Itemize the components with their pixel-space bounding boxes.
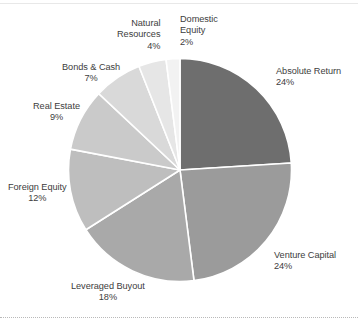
- slice-label-name-line1: Domestic: [180, 14, 218, 24]
- slice-label-name: Foreign Equity: [8, 182, 67, 192]
- slice-label-name: Leveraged Buyout: [71, 281, 145, 291]
- slice-label-value: 24%: [274, 261, 336, 272]
- slice-label-name: Real Estate: [33, 101, 80, 111]
- slice-label-natural-resources: Natural Resources 4%: [117, 18, 160, 52]
- slice-label-name-line2: Equity: [180, 25, 205, 35]
- slice-label-venture-capital: Venture Capital 24%: [274, 250, 336, 273]
- slice-label-absolute-return: Absolute Return 24%: [276, 66, 341, 89]
- slice-label-name: Absolute Return: [276, 66, 341, 76]
- pie-chart: [68, 58, 292, 282]
- slice-label-value: 4%: [117, 41, 160, 52]
- slice-label-name: Bonds & Cash: [62, 62, 120, 72]
- slice-label-domestic-equity: Domestic Equity 2%: [180, 14, 218, 48]
- slice-label-value: 24%: [276, 77, 341, 88]
- top-divider: [0, 3, 358, 4]
- slice-label-value: 7%: [62, 73, 120, 84]
- slice-label-value: 18%: [71, 292, 145, 303]
- slice-label-bonds-cash: Bonds & Cash 7%: [62, 62, 120, 85]
- slice-label-name-line1: Natural: [131, 18, 160, 28]
- slice-label-foreign-equity: Foreign Equity 12%: [8, 182, 67, 205]
- pie-svg: [68, 58, 292, 282]
- pie-chart-figure: Absolute Return 24% Venture Capital 24% …: [0, 0, 358, 322]
- slice-label-real-estate: Real Estate 9%: [33, 101, 80, 124]
- slice-label-name: Venture Capital: [274, 250, 336, 260]
- slice-label-value: 2%: [180, 37, 218, 48]
- slice-label-leveraged-buyout: Leveraged Buyout 18%: [71, 281, 145, 304]
- slice-label-name-line2: Resources: [117, 29, 160, 39]
- bottom-divider: [0, 317, 358, 318]
- slice-label-value: 9%: [33, 112, 80, 123]
- slice-label-value: 12%: [8, 193, 67, 204]
- pie-slice-absolute-return: [180, 59, 291, 171]
